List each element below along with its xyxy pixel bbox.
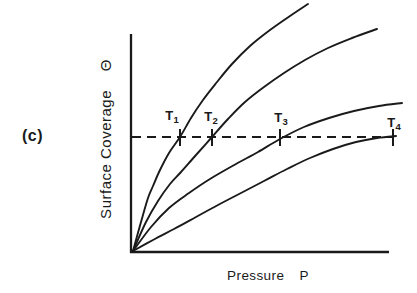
temperature-label-base: T [387,115,395,130]
temperature-label-T2: T2 [204,110,218,126]
y-axis-label-text: Surface Coverage [97,90,114,219]
temperature-label-T3: T3 [274,111,288,127]
temperature-label-subscript: 3 [283,116,288,127]
temperature-label-base: T [165,108,173,123]
temperature-label-subscript: 4 [396,121,401,132]
temperature-label-subscript: 1 [174,114,179,125]
x-axis-label-text: Pressure [227,268,284,283]
temperature-label-subscript: 2 [213,115,218,126]
temperature-label-base: T [204,109,212,124]
temperature-label-base: T [274,110,282,125]
isotherm-figure-panel-c: (c) Surface Coverage Θ Pressure P T1T2T3… [0,0,417,293]
y-axis-label: Surface Coverage Θ [97,59,114,219]
pressure-symbol: P [299,268,308,283]
theta-symbol: Θ [97,59,114,71]
plot-canvas [0,0,417,293]
temperature-label-T4: T4 [387,116,401,132]
isotherm-curve-T2 [133,29,377,251]
isotherm-curve-T4 [133,136,396,251]
x-axis-label: Pressure P [227,268,309,283]
temperature-label-T1: T1 [165,109,179,125]
